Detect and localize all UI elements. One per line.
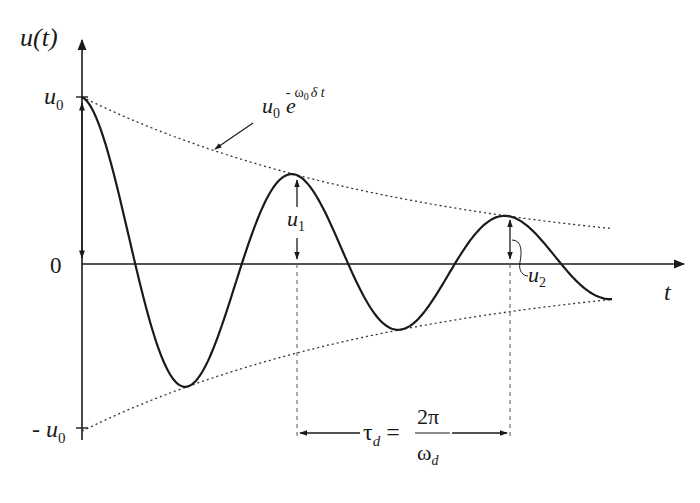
u1-label: u1 <box>287 206 305 234</box>
u0-tick-label: u0 <box>44 83 64 113</box>
period-tau-label: τd= <box>363 419 400 449</box>
period-denominator: ωd <box>417 440 439 468</box>
lower-envelope <box>82 299 612 431</box>
upper-envelope <box>82 97 612 229</box>
damped-oscillation-diagram: u(t) t u0 0 - u0 u0e-ω0δ t u1 u2 τd= 2π … <box>0 0 700 503</box>
neg-u0-tick-label: - u0 <box>32 416 66 446</box>
period-numerator: 2π <box>417 404 439 429</box>
y-axis-label: u(t) <box>20 23 58 52</box>
u2-label: u2 <box>528 262 546 290</box>
x-axis-label: t <box>664 279 672 305</box>
zero-tick-label: 0 <box>50 253 62 278</box>
envelope-label: u0e-ω0δ t <box>262 85 326 121</box>
u2-leader-line <box>512 240 528 276</box>
envelope-annotation-arrow <box>215 123 253 149</box>
damped-oscillation-curve <box>82 97 612 387</box>
